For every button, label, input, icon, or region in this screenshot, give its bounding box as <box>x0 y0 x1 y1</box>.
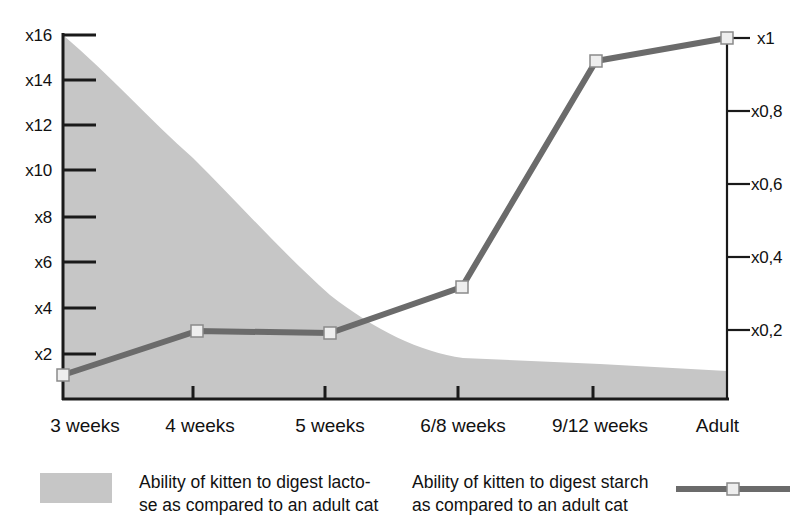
x-axis-label-4-weeks: 4 weeks <box>140 415 260 437</box>
y-right-tick-label-x02: x0,2 <box>751 321 782 341</box>
y-right-tick-label-x04: x0,4 <box>751 248 782 268</box>
chart-container: x16 x14 x12 x10 x8 x6 x4 x2 x1 x0,8 x0,6… <box>0 0 802 520</box>
legend-label-lactose: Ability of kitten to digest lacto- se as… <box>139 471 407 517</box>
y-right-tick-label-x08: x0,8 <box>751 102 782 122</box>
y-left-tick-label-x14: x14 <box>8 71 52 91</box>
y-left-tick-label-x12: x12 <box>8 116 52 136</box>
x-axis-label-6-8-weeks: 6/8 weeks <box>398 415 528 437</box>
y-axis-right-ticks <box>727 38 750 330</box>
y-left-tick-label-x4: x4 <box>8 299 52 319</box>
legend-line-sample <box>676 483 790 495</box>
y-left-tick-label-x2: x2 <box>8 345 52 365</box>
x-axis-label-5-weeks: 5 weeks <box>270 415 390 437</box>
x-axis-label-adult: Adult <box>665 415 770 437</box>
chart-canvas <box>0 0 802 520</box>
y-left-tick-label-x10: x10 <box>8 161 52 181</box>
y-right-tick-label-x1: x1 <box>757 29 775 49</box>
y-left-tick-label-x16: x16 <box>8 26 52 46</box>
y-right-tick-label-x06: x0,6 <box>751 175 782 195</box>
x-axis-label-9-12-weeks: 9/12 weeks <box>530 415 670 437</box>
y-left-tick-label-x8: x8 <box>8 208 52 228</box>
y-left-tick-label-x6: x6 <box>8 253 52 273</box>
legend-label-starch: Ability of kitten to digest starch as co… <box>412 471 682 517</box>
legend-swatch-lactose <box>40 473 112 503</box>
x-axis-label-3-weeks: 3 weeks <box>25 415 145 437</box>
